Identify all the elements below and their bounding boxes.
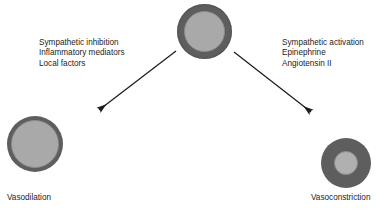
vasoconstriction-factor-1: Sympathetic activation xyxy=(282,38,364,48)
vasodilation-factor-2: Inflammatory mediators xyxy=(39,48,125,58)
constricted-vessel xyxy=(321,138,371,188)
vasoconstriction-factor-3: Angiotensin II xyxy=(282,59,364,69)
vasodilation-factors-list: Sympathetic inhibition Inflammatory medi… xyxy=(39,38,125,69)
constricted-vessel-lumen xyxy=(334,151,358,175)
dilated-vessel xyxy=(7,116,63,172)
dilated-vessel-lumen xyxy=(11,120,59,168)
vasodilation-factor-3: Local factors xyxy=(39,59,125,69)
vascular-tone-diagram: Sympathetic inhibition Inflammatory medi… xyxy=(0,0,391,213)
vasodilation-factor-1: Sympathetic inhibition xyxy=(39,38,125,48)
normal-vessel xyxy=(177,4,232,59)
vasoconstriction-factors-list: Sympathetic activation Epinephrine Angio… xyxy=(282,38,364,69)
normal-vessel-lumen xyxy=(184,11,225,52)
vasoconstriction-label: Vasoconstriction xyxy=(311,193,370,202)
vasodilation-label: Vasodilation xyxy=(7,193,51,202)
vasoconstriction-factor-2: Epinephrine xyxy=(282,48,364,58)
